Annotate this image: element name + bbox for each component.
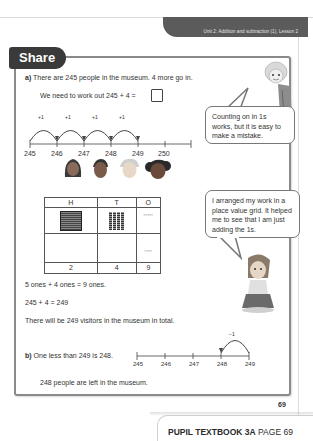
pv-header-h: H xyxy=(45,198,98,208)
visitor-faces-icon xyxy=(63,157,173,181)
jump-label-3: +1 xyxy=(92,114,98,120)
people-left-text: 248 people are left in the museum. xyxy=(40,379,148,386)
minus-one-label: −1 xyxy=(229,331,235,337)
total-visitors-text: There will be 249 visitors in the museum… xyxy=(25,317,174,324)
jump-label-1: +1 xyxy=(38,114,44,120)
four-ones-cubes-icon: ▫▫▫▫ xyxy=(137,248,160,253)
book-title: PUPIL TEXTBOOK 3A xyxy=(168,427,256,437)
tick-249: 249 xyxy=(132,150,144,157)
part-a-letter: a) xyxy=(25,74,31,81)
tick-245: 245 xyxy=(24,150,36,157)
hundreds-cell xyxy=(45,208,98,234)
b-tick-248: 248 xyxy=(217,361,227,367)
tens-cell xyxy=(97,208,136,234)
tick-247: 247 xyxy=(78,150,90,157)
ten-rod-icon xyxy=(113,212,116,230)
part-a-problem: a) There are 245 people in the museum. 4… xyxy=(25,74,193,81)
pv-digit-o: 9 xyxy=(136,262,160,273)
number-line-b xyxy=(132,330,272,365)
pv-header-t: T xyxy=(97,198,136,208)
hundreds-block-icon xyxy=(60,211,82,231)
pv-digit-h: 2 xyxy=(45,262,98,273)
tick-248: 248 xyxy=(105,150,117,157)
tick-246: 246 xyxy=(51,150,63,157)
pv-digit-t: 4 xyxy=(97,262,136,273)
jump-label-4: +1 xyxy=(119,114,125,120)
part-b-statement: b) One less than 249 is 248. xyxy=(25,352,113,359)
book-page: PAGE 69 xyxy=(258,427,293,437)
pv-header-o: O xyxy=(136,198,160,208)
b-tick-247: 247 xyxy=(189,361,199,367)
part-b-letter: b) xyxy=(25,352,32,359)
girl-character-icon xyxy=(238,252,278,314)
ones-sum-text: 5 ones + 4 ones = 9 ones. xyxy=(25,281,106,288)
unit-banner: Unit 2: Addition and subtraction (1), Le… xyxy=(163,17,308,37)
work-out-text: We need to work out 245 + 4 = xyxy=(40,92,136,99)
b-tick-249: 249 xyxy=(245,361,255,367)
jump-label-2: +1 xyxy=(65,114,71,120)
equation-text: 245 + 4 = 249 xyxy=(25,299,68,306)
speech-bubble-2: I arranged my work in a place value grid… xyxy=(205,190,300,238)
ten-rod-icon xyxy=(117,212,120,230)
footer-book-label: PUPIL TEXTBOOK 3A PAGE 69 xyxy=(157,415,313,441)
b-tick-246: 246 xyxy=(161,361,171,367)
ten-rod-icon xyxy=(109,212,112,230)
place-value-table: H T O ▫▫▫▫▫ ▫▫▫▫ 2 4 9 xyxy=(44,197,161,274)
b-tick-245: 245 xyxy=(133,361,143,367)
answer-box[interactable] xyxy=(151,89,163,102)
share-tab: Share xyxy=(9,47,66,69)
speech-bubble-1: Counting on in 1s works, but it is easy … xyxy=(205,106,295,144)
page-number: 69 xyxy=(278,401,286,408)
ones-cell-bottom: ▫▫▫▫ xyxy=(136,234,160,262)
five-ones-cubes-icon: ▫▫▫▫▫ xyxy=(137,212,160,217)
ones-cell-top: ▫▫▫▫▫ xyxy=(136,208,160,234)
tick-250: 250 xyxy=(158,150,170,157)
ten-rod-icon xyxy=(121,212,124,230)
